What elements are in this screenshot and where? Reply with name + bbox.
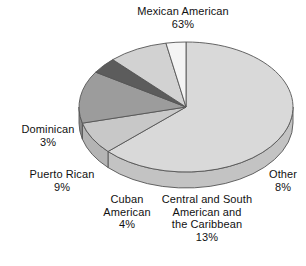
slice-label-central-and-south-american-and-the-caribbean: Central and South American and the Carib…	[152, 193, 262, 243]
slice-label-puerto-rican: Puerto Rican 9%	[14, 168, 110, 193]
slice-label-dominican: Dominican 3%	[2, 123, 94, 148]
slice-label-cuban-american: Cuban American 4%	[96, 193, 158, 231]
pie-chart-figure: Mexican American 63% Dominican 3% Puerto…	[0, 0, 306, 266]
slice-label-mexican-american: Mexican American 63%	[103, 5, 263, 30]
pie-top-slices	[79, 42, 293, 172]
slice-label-other: Other 8%	[262, 168, 304, 193]
